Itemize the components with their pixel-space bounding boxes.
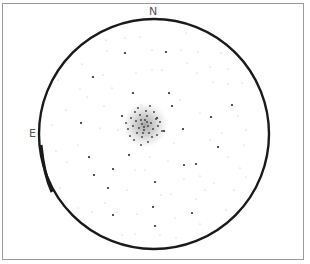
faint-star (186, 62, 187, 63)
faint-star (102, 74, 103, 75)
faint-star (233, 189, 234, 190)
cluster-star (147, 141, 149, 143)
faint-star (227, 68, 228, 69)
astronomical-sketch: N E (0, 0, 310, 264)
faint-star (151, 49, 152, 50)
cluster-star (138, 127, 140, 129)
faint-star (59, 187, 60, 188)
faint-star (209, 66, 210, 67)
cluster-star (156, 134, 158, 136)
cluster-star (143, 129, 145, 131)
bright-star (154, 181, 156, 183)
bright-star (210, 116, 212, 118)
faint-star (199, 223, 200, 224)
faint-star (212, 81, 213, 82)
cluster-star (133, 139, 135, 141)
faint-star (104, 202, 105, 203)
cluster-star (161, 130, 163, 132)
faint-star (55, 150, 56, 151)
bright-star (112, 214, 114, 216)
cluster-star (152, 128, 154, 130)
faint-star (149, 156, 150, 157)
faint-star (116, 211, 117, 212)
faint-star (103, 105, 104, 106)
cluster-star (127, 128, 129, 130)
east-label: E (29, 128, 36, 139)
cluster-star (159, 121, 161, 123)
faint-star (106, 50, 107, 51)
faint-star (173, 142, 174, 143)
cluster-glow (121, 101, 169, 149)
bright-star (107, 187, 109, 189)
bright-star (182, 128, 184, 130)
faint-star (159, 234, 160, 235)
faint-star (86, 96, 87, 97)
faint-star (213, 182, 214, 183)
cluster-star (136, 132, 138, 134)
faint-star (105, 39, 106, 40)
eyepiece-edge-shading (41, 145, 52, 192)
cluster-star (157, 125, 159, 127)
cluster-star (130, 117, 132, 119)
faint-star (77, 144, 78, 145)
cluster-star (144, 119, 146, 121)
eyepiece-field (0, 0, 310, 264)
faint-star (245, 129, 246, 130)
faint-star (79, 88, 80, 89)
faint-star (241, 82, 242, 83)
cluster-halo (121, 101, 169, 149)
faint-star (66, 161, 67, 162)
bright-star (132, 92, 134, 94)
faint-star (199, 112, 200, 113)
faint-star (196, 72, 197, 73)
bright-star (168, 92, 170, 94)
faint-star (51, 124, 52, 125)
faint-star (151, 69, 152, 70)
faint-star (183, 178, 184, 179)
faint-star (175, 237, 176, 238)
cluster-star (143, 126, 145, 128)
faint-star (111, 87, 112, 88)
bright-star (191, 212, 193, 214)
cluster-star (153, 111, 155, 113)
faint-star (91, 211, 92, 212)
faint-star (225, 209, 226, 210)
faint-star (170, 193, 171, 194)
faint-star (117, 129, 118, 130)
faint-star (227, 156, 228, 157)
faint-star (135, 72, 136, 73)
bright-star (231, 104, 233, 106)
cluster-star (132, 125, 134, 127)
faint-star (237, 115, 238, 116)
faint-star (140, 104, 141, 105)
cluster-star (141, 136, 143, 138)
north-label: N (149, 6, 157, 17)
bright-star (88, 156, 90, 158)
bright-star (121, 115, 123, 117)
bright-star (195, 163, 197, 165)
bright-star (217, 146, 219, 148)
cluster-star (150, 122, 152, 124)
faint-star (197, 51, 198, 52)
faint-star (180, 49, 181, 50)
cluster-star (146, 121, 148, 123)
faint-star (57, 79, 58, 80)
faint-star (134, 169, 135, 170)
faint-star (204, 189, 205, 190)
bright-star (152, 206, 154, 208)
cluster-star (141, 123, 143, 125)
faint-star (239, 167, 240, 168)
cluster-star (125, 122, 127, 124)
bright-star (163, 130, 165, 132)
bright-star (183, 164, 185, 166)
faint-star (227, 83, 228, 84)
bright-star (80, 122, 82, 124)
bright-star (165, 51, 167, 53)
faint-star (139, 36, 140, 37)
cluster-star (145, 110, 147, 112)
faint-star (121, 234, 122, 235)
cluster-star (129, 135, 131, 137)
faint-star (65, 109, 66, 110)
cluster-star (151, 136, 153, 138)
faint-star (185, 32, 186, 33)
